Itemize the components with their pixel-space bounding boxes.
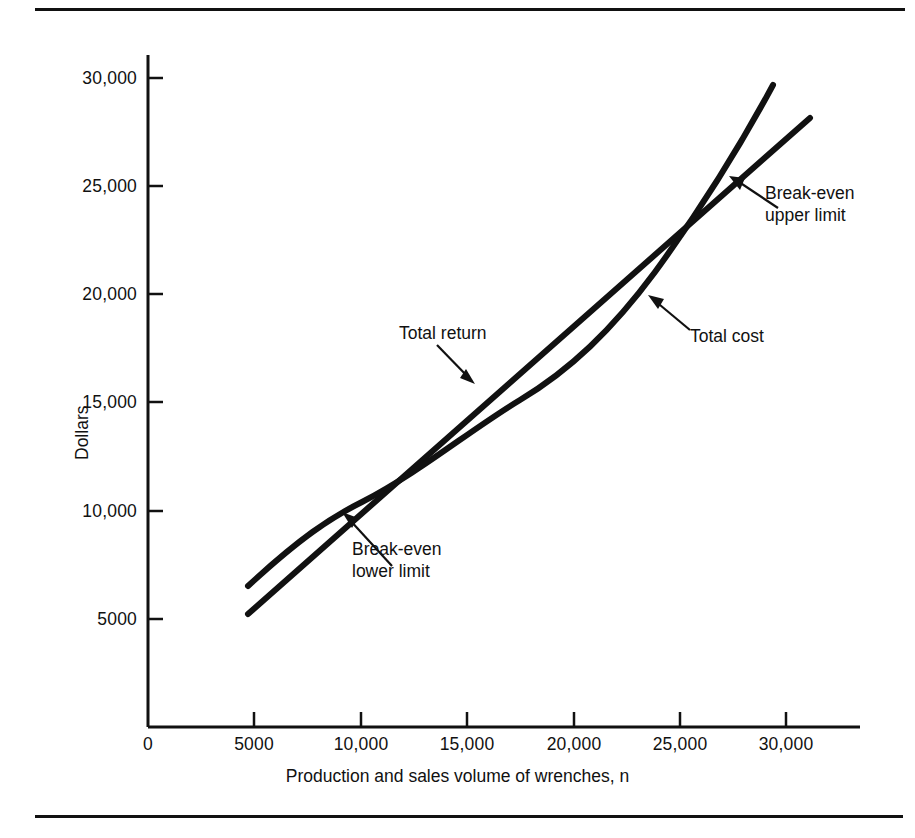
annotation-break-even-upper-line2: upper limit [765,204,855,226]
x-tick-label-0: 0 [108,734,188,755]
y-tick-label-30000: 30,000 [12,68,137,89]
y-tick-label-5000: 5000 [12,609,137,630]
x-tick-label-15000: 15,000 [417,734,517,755]
y-tick-label-20000: 20,000 [12,284,137,305]
x-tick-label-25000: 25,000 [630,734,730,755]
y-axis-title: Dollars [72,406,93,460]
total-cost-arrow [648,295,690,330]
x-tick-label-5000: 5000 [204,734,304,755]
total-return-arrow [437,345,475,384]
y-tick-label-10000: 10,000 [12,501,137,522]
annotation-total-cost: Total cost [690,325,764,347]
x-axis-ticks [254,712,786,727]
total-return-line [248,118,810,614]
y-axis-ticks [148,78,163,619]
annotation-break-even-lower-line1: Break-even [352,538,442,560]
x-axis-title: Production and sales volume of wrenches,… [0,766,915,787]
x-tick-label-30000: 30,000 [736,734,836,755]
break-even-chart-plot [0,0,915,838]
x-tick-label-10000: 10,000 [311,734,411,755]
annotation-break-even-lower-limit: Break-even lower limit [352,538,442,582]
annotation-break-even-lower-line2: lower limit [352,560,442,582]
annotation-total-cost-text: Total cost [690,325,764,347]
y-tick-label-25000: 25,000 [12,176,137,197]
annotation-total-return-text: Total return [399,322,487,344]
annotation-total-return: Total return [399,322,487,344]
annotation-break-even-upper-line1: Break-even [765,182,855,204]
x-tick-label-20000: 20,000 [524,734,624,755]
figure-container: 30,000 25,000 20,000 15,000 10,000 5000 … [0,0,915,838]
annotation-break-even-upper-limit: Break-even upper limit [765,182,855,226]
